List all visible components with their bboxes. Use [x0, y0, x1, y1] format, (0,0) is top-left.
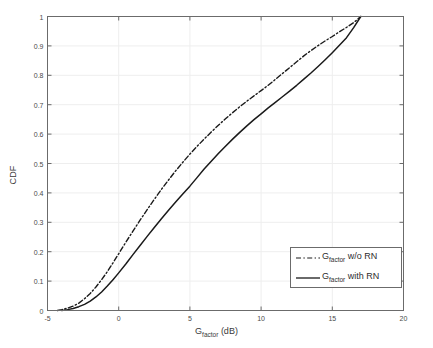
legend-label-0-subscript: factor [329, 256, 345, 263]
legend-solid-line-icon [295, 272, 321, 284]
legend-box[interactable]: Gfactor w/o RN Gfactor with RN [290, 247, 402, 288]
cdf-plot [0, 0, 433, 348]
figure-canvas: 00.10.20.30.40.50.60.70.80.91 -505101520… [0, 0, 433, 348]
x-axis-title: Gfactor (dB) [0, 326, 433, 338]
legend-label-0-rest: w/o RN [345, 251, 377, 261]
legend-dashdot-line-icon [295, 252, 321, 264]
y-tick-label: 0.9 [20, 42, 44, 49]
y-tick-label: 0.5 [20, 160, 44, 167]
legend-label-1-base: G [322, 271, 329, 281]
x-tick-label: -5 [44, 315, 50, 322]
y-tick-label: 0 [20, 307, 44, 314]
legend-label-1: Gfactor with RN [322, 272, 379, 283]
legend-label-0: Gfactor w/o RN [322, 252, 377, 263]
legend-label-1-subscript: factor [329, 276, 345, 283]
y-axis-title-text: CDF [8, 165, 18, 184]
x-axis-title-unit: (dB) [218, 326, 238, 336]
y-axis-title: CDF [6, 145, 20, 205]
legend-label-1-rest: with RN [345, 271, 379, 281]
y-tick-label: 0.6 [20, 131, 44, 138]
x-tick-label: 5 [188, 315, 192, 322]
x-tick-label: 20 [400, 315, 408, 322]
x-tick-label: 15 [328, 315, 336, 322]
y-tick-label: 0.4 [20, 189, 44, 196]
y-tick-label: 0.7 [20, 101, 44, 108]
legend-item-gfactor-wo-rn[interactable]: Gfactor w/o RN [291, 248, 403, 268]
y-tick-label: 0.2 [20, 248, 44, 255]
x-tick-label: 10 [257, 315, 265, 322]
x-tick-label: 0 [117, 315, 121, 322]
y-tick-label: 0.8 [20, 72, 44, 79]
x-axis-title-subscript: factor [202, 331, 218, 338]
y-tick-label: 0.1 [20, 278, 44, 285]
legend-label-0-base: G [322, 251, 329, 261]
legend-item-gfactor-with-rn[interactable]: Gfactor with RN [291, 268, 403, 288]
y-tick-label: 0.3 [20, 219, 44, 226]
y-tick-label: 1 [20, 13, 44, 20]
